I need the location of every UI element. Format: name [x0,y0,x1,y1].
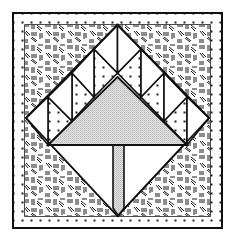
quilt-block-svg [0,0,237,243]
quilt-block-figure [0,0,237,243]
tree-trunk [113,145,124,216]
